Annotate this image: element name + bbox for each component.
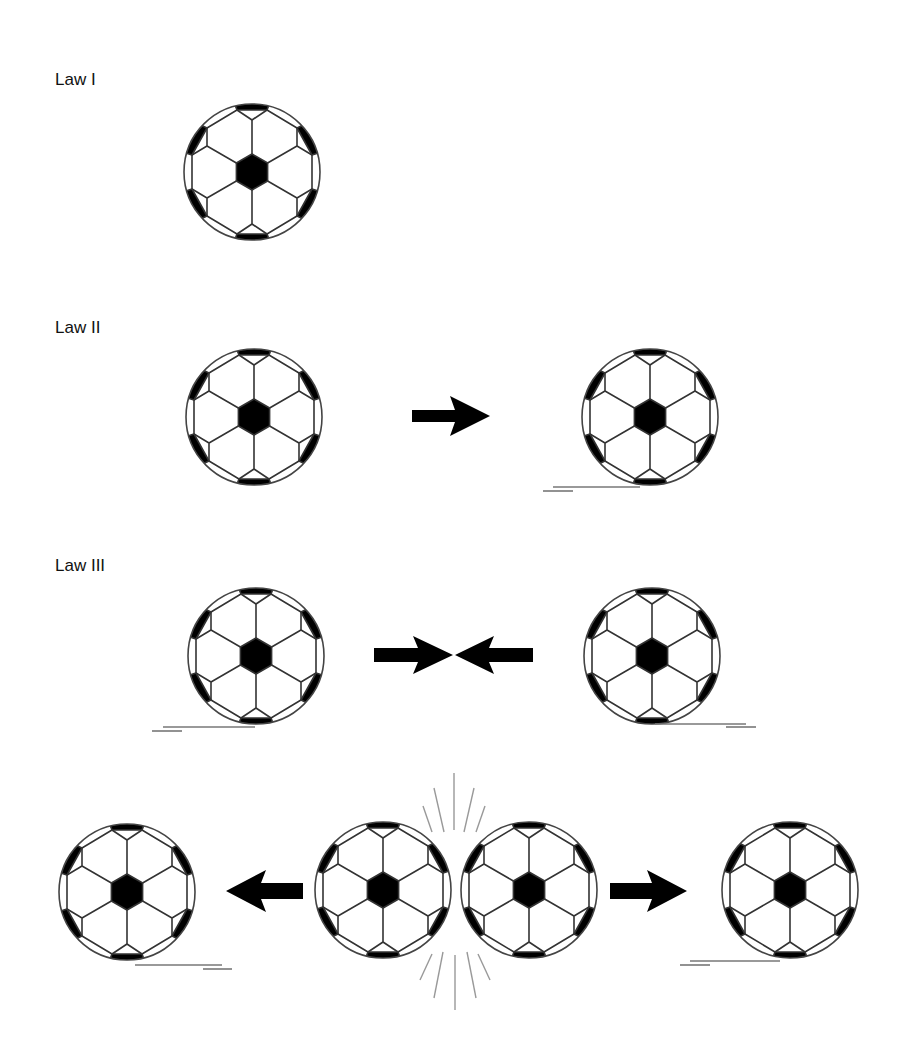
collision-panel — [52, 773, 865, 1010]
law-1-panel — [177, 97, 327, 247]
arrow-right-icon — [610, 870, 687, 912]
law-3-panel — [152, 581, 756, 731]
law-2-panel — [179, 342, 725, 492]
arrow-right-icon — [374, 636, 453, 674]
soccer-ball-icon — [179, 342, 329, 492]
motion-lines — [543, 487, 640, 491]
motion-lines — [655, 724, 756, 727]
diagram-canvas — [0, 0, 900, 1046]
soccer-ball-icon — [52, 817, 202, 967]
soccer-ball-icon — [308, 815, 458, 965]
soccer-ball-icon — [177, 97, 327, 247]
arrow-right-icon — [412, 396, 490, 436]
soccer-ball-icon — [575, 342, 725, 492]
soccer-ball-icon — [454, 815, 604, 965]
soccer-ball-icon — [715, 815, 865, 965]
soccer-ball-icon — [577, 581, 727, 731]
motion-lines — [135, 965, 232, 969]
soccer-ball-icon — [181, 581, 331, 731]
motion-lines — [152, 727, 255, 731]
arrow-left-icon — [226, 870, 303, 912]
arrow-left-icon — [455, 636, 533, 674]
motion-lines — [680, 961, 780, 965]
